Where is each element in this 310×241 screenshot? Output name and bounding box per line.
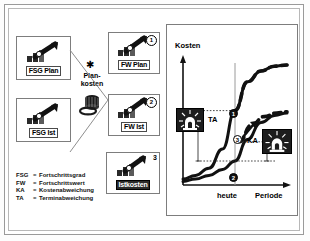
chart-xlabel: Periode [255,191,283,200]
today-label: heute [217,191,237,200]
ta-label: TA [208,115,217,124]
legend-abbr: FSG [16,172,33,180]
chart-panel: Kosten [166,24,298,216]
chart-marker-2: 2 [229,173,238,182]
step-badge-3: 3 [153,154,157,162]
bar-chart-arrow-icon: 1 [116,36,152,58]
step-badge-1: 1 [146,35,157,46]
legend-row: TA=Terminabweichung [16,195,94,203]
legend-abbr: FW [16,180,33,188]
node-fsg-plan[interactable]: FSG Plan [16,36,71,80]
node-caption: FSG Ist [29,128,58,138]
node-caption: FW Ist [121,122,147,132]
chart-series-plankosten-prognose [235,65,287,111]
beacon-lamp-icon-right [262,129,292,154]
node-caption: Istkosten [116,180,151,190]
legend-abbr: KA [16,187,33,195]
node-caption: FW Plan [118,60,150,70]
legend-row: FW=Fortschrittswert [16,180,94,188]
beacon-lamp-icon-left [176,108,204,132]
chart-marker-1: 1 [229,109,238,118]
ka-label: KA [247,136,258,145]
bar-chart-arrow-icon [25,42,63,64]
legend-abbr: TA [16,195,33,203]
step-badge-2: 2 [146,97,157,108]
legend-row: KA=Kostenabweichung [16,187,94,195]
legend-text: Terminabweichung [39,195,93,201]
bar-chart-arrow-icon: 3 [115,156,151,178]
node-fsg-ist[interactable]: FSG Ist [16,98,71,142]
node-fw-plan[interactable]: 1 FW Plan [108,32,160,74]
legend-row: FSG=Fortschrittsgrad [16,172,94,180]
bar-chart-arrow-icon: 2 [116,98,152,120]
chart-marker-3: 3 [233,135,242,144]
node-fw-ist[interactable]: 2 FW Ist [108,94,160,136]
legend-text: Fortschrittswert [39,180,85,186]
legend: FSG=Fortschrittsgrad FW=Fortschrittswert… [16,172,94,202]
bar-chart-arrow-icon [25,104,63,126]
legend-text: Fortschrittsgrad [39,172,85,178]
diagram-page: FSG Plan FSG Ist ✱ Plan- kosten [0,0,310,241]
legend-text: Kostenabweichung [39,187,94,193]
node-istkosten[interactable]: 3 Istkosten [106,152,160,194]
node-caption: FSG Plan [26,66,62,76]
